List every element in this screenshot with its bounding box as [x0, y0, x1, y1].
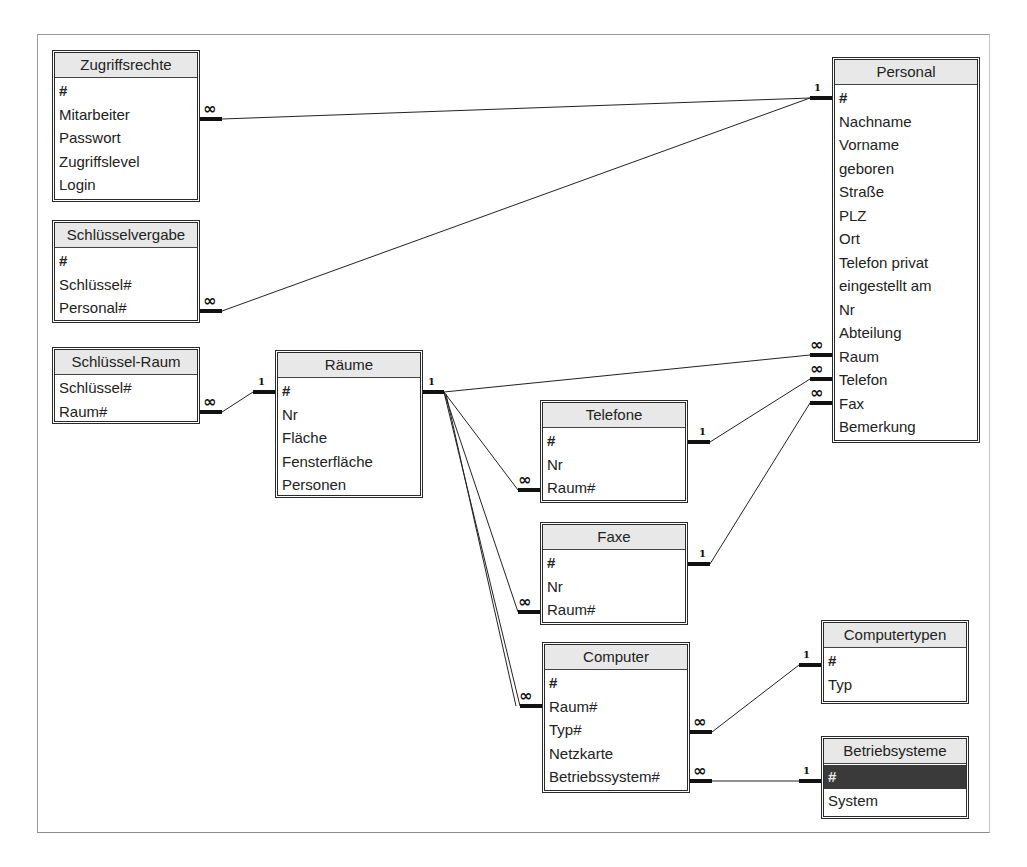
field-passwort[interactable]: Passwort [55, 126, 197, 150]
field-personal[interactable]: Personal# [55, 296, 197, 320]
field-nr[interactable]: Nr [278, 403, 420, 427]
table-computertypen[interactable]: Computertypen # Typ [821, 620, 969, 704]
field-login[interactable]: Login [55, 173, 197, 197]
field-id[interactable]: # [824, 649, 966, 673]
field-plz[interactable]: PLZ [835, 204, 977, 228]
field-schluessel[interactable]: Schlüssel# [55, 273, 197, 297]
field-vorname[interactable]: Vorname [835, 133, 977, 157]
field-fax[interactable]: Fax [835, 392, 977, 416]
field-abteilung[interactable]: Abteilung [835, 321, 977, 345]
table-title[interactable]: Computertypen [824, 623, 966, 648]
table-faxe[interactable]: Faxe # Nr Raum# [540, 522, 688, 625]
field-nachname[interactable]: Nachname [835, 110, 977, 134]
table-computer[interactable]: Computer # Raum# Typ# Netzkarte Betriebs… [542, 642, 690, 793]
cardinality-many-label: ∞ [203, 296, 215, 306]
field-telefon[interactable]: Telefon [835, 368, 977, 392]
field-raum[interactable]: Raum# [545, 695, 687, 719]
cardinality-one-label: 1 [803, 766, 810, 776]
field-nr[interactable]: Nr [543, 575, 685, 599]
field-personen[interactable]: Personen [278, 473, 420, 497]
table-title[interactable]: Zugriffsrechte [55, 53, 197, 78]
field-raum[interactable]: Raum# [543, 476, 685, 500]
cardinality-one-label: 1 [699, 549, 706, 559]
field-eingestellt-am[interactable]: eingestellt am [835, 274, 977, 298]
cardinality-many-label: ∞ [518, 475, 530, 485]
table-title[interactable]: Faxe [543, 525, 685, 550]
field-id[interactable]: # [543, 551, 685, 575]
cardinality-one-label: 1 [428, 377, 435, 387]
field-zugriffslevel[interactable]: Zugriffslevel [55, 150, 197, 174]
field-ort[interactable]: Ort [835, 227, 977, 251]
field-geboren[interactable]: geboren [835, 157, 977, 181]
field-fensterflaeche[interactable]: Fensterfläche [278, 450, 420, 474]
table-title[interactable]: Räume [278, 353, 420, 378]
cardinality-one-label: 1 [803, 650, 810, 660]
table-title[interactable]: Schlüsselvergabe [55, 223, 197, 248]
field-betriebssystem[interactable]: Betriebssystem# [545, 765, 687, 789]
table-title[interactable]: Schlüssel-Raum [55, 350, 197, 375]
field-netzkarte[interactable]: Netzkarte [545, 742, 687, 766]
cardinality-many-label: ∞ [693, 766, 705, 776]
cardinality-many-label: ∞ [810, 340, 822, 350]
cardinality-many-label: ∞ [203, 397, 215, 407]
cardinality-one-label: 1 [699, 427, 706, 437]
field-nr[interactable]: Nr [835, 298, 977, 322]
field-typ[interactable]: Typ [824, 673, 966, 697]
cardinality-many-label: ∞ [203, 104, 215, 114]
table-schluessel-raum[interactable]: Schlüssel-Raum Schlüssel# Raum# [52, 347, 200, 424]
field-telefon-privat[interactable]: Telefon privat [835, 251, 977, 275]
field-nr[interactable]: Nr [543, 453, 685, 477]
table-title[interactable]: Personal [835, 60, 977, 85]
field-system[interactable]: System [824, 789, 966, 813]
table-personal[interactable]: Personal # Nachname Vorname geboren Stra… [832, 57, 980, 443]
field-mitarbeiter[interactable]: Mitarbeiter [55, 103, 197, 127]
table-title[interactable]: Computer [545, 645, 687, 670]
cardinality-one-label: 1 [258, 377, 265, 387]
field-raum[interactable]: Raum [835, 345, 977, 369]
field-id[interactable]: # [543, 429, 685, 453]
table-raeume[interactable]: Räume # Nr Fläche Fensterfläche Personen [275, 350, 423, 498]
field-flaeche[interactable]: Fläche [278, 426, 420, 450]
cardinality-many-label: ∞ [810, 388, 822, 398]
field-raum[interactable]: Raum# [543, 598, 685, 622]
table-title[interactable]: Betriebsysteme [824, 739, 966, 764]
cardinality-many-label: ∞ [693, 717, 705, 727]
field-id[interactable]: # [278, 379, 420, 403]
cardinality-one-label: 1 [814, 83, 821, 93]
field-id-selected[interactable]: # [824, 765, 966, 789]
field-id[interactable]: # [835, 86, 977, 110]
field-strasse[interactable]: Straße [835, 180, 977, 204]
field-id[interactable]: # [545, 671, 687, 695]
field-bemerkung[interactable]: Bemerkung [835, 415, 977, 439]
cardinality-many-label: ∞ [810, 364, 822, 374]
table-schluesselvergabe[interactable]: Schlüsselvergabe # Schlüssel# Personal# [52, 220, 200, 323]
field-typ[interactable]: Typ# [545, 718, 687, 742]
table-telefone[interactable]: Telefone # Nr Raum# [540, 400, 688, 503]
table-zugriffsrechte[interactable]: Zugriffsrechte # Mitarbeiter Passwort Zu… [52, 50, 200, 202]
field-id[interactable]: # [55, 249, 197, 273]
cardinality-many-label: ∞ [519, 691, 531, 701]
table-betriebsysteme[interactable]: Betriebsysteme # System [821, 736, 969, 819]
cardinality-many-label: ∞ [518, 597, 530, 607]
field-raum[interactable]: Raum# [55, 400, 197, 424]
field-schluessel[interactable]: Schlüssel# [55, 376, 197, 400]
table-title[interactable]: Telefone [543, 403, 685, 428]
field-id[interactable]: # [55, 79, 197, 103]
